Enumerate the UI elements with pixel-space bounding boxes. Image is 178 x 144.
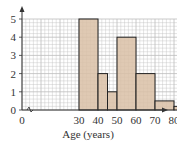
y-tick-labels: 012345 <box>11 13 23 116</box>
x-axis-label: Age (years) <box>62 128 114 141</box>
histogram-bar <box>136 74 155 110</box>
x-tick-label: 30 <box>74 114 86 126</box>
histogram-bar <box>117 37 136 110</box>
x-tick-label: 80 <box>169 114 178 126</box>
x-tick-label: 0 <box>19 114 25 126</box>
bars <box>79 19 177 110</box>
y-tick-label: 0 <box>11 104 17 116</box>
x-tick-labels: 030405060708090 <box>19 114 177 126</box>
y-tick-label: 1 <box>11 86 17 98</box>
y-tick-label: 2 <box>11 68 17 80</box>
histogram-bar <box>174 106 177 110</box>
x-tick-label: 50 <box>112 114 124 126</box>
x-tick-label: 70 <box>150 114 162 126</box>
y-axis-arrow-icon <box>20 6 25 12</box>
histogram-chart: 012345 030405060708090 Age (years) <box>0 0 177 144</box>
y-tick-label: 4 <box>11 31 17 43</box>
y-tick-label: 3 <box>11 49 17 61</box>
x-tick-label: 60 <box>131 114 143 126</box>
histogram-bar <box>79 19 98 110</box>
histogram-bar <box>98 74 108 110</box>
x-tick-label: 40 <box>93 114 105 126</box>
histogram-bar <box>108 92 118 110</box>
y-tick-label: 5 <box>11 13 17 25</box>
